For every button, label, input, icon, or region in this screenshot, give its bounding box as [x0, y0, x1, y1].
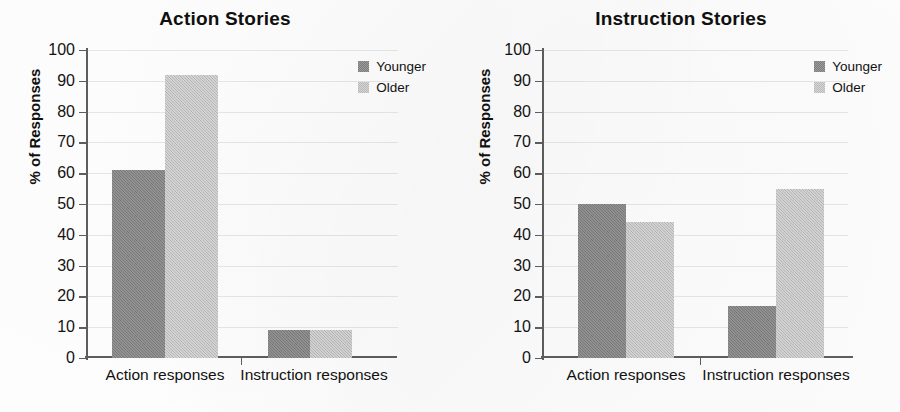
y-tick [535, 81, 542, 82]
bar-instruction-older[interactable] [310, 330, 352, 358]
legend-swatch-younger-icon [358, 61, 369, 72]
chart-panel-instruction-stories: Instruction Stories % of Responses 100 9… [450, 0, 900, 412]
y-tick [79, 142, 86, 143]
y-tick [535, 235, 542, 236]
bar-instruction-younger[interactable] [728, 306, 776, 358]
figure-two-panel-bar-charts: Action Stories % of Responses 100 90 80 … [0, 0, 900, 412]
y-tick [79, 81, 86, 82]
y-tick [79, 204, 86, 205]
y-tick-label: 50 [513, 196, 531, 212]
legend-swatch-younger-icon [814, 61, 825, 72]
bar-instruction-older[interactable] [776, 189, 824, 358]
y-tick-label: 70 [513, 134, 531, 150]
chart-title: Instruction Stories [456, 8, 900, 30]
y-tick-label: 10 [513, 319, 531, 335]
y-tick [535, 296, 542, 297]
y-tick-label: 40 [513, 227, 531, 243]
bar-action-older[interactable] [165, 75, 218, 358]
y-tick-label: 90 [513, 73, 531, 89]
x-tick-label-action-responses: Action responses [567, 366, 686, 384]
y-tick [79, 173, 86, 174]
y-tick [79, 296, 86, 297]
legend-label-older: Older [376, 81, 409, 95]
y-tick [535, 50, 542, 51]
y-tick [535, 327, 542, 328]
bar-action-younger[interactable] [112, 170, 165, 358]
y-tick-label: 0 [66, 350, 75, 366]
y-axis-title: % of Responses [26, 57, 43, 197]
y-tick [535, 266, 542, 267]
x-tick-label-action-responses: Action responses [106, 366, 225, 384]
y-tick [535, 173, 542, 174]
category-divider-tick [700, 357, 701, 365]
y-tick-label: 10 [57, 319, 75, 335]
x-tick-label-instruction-responses: Instruction responses [702, 366, 849, 384]
category-divider-tick [241, 357, 242, 365]
y-tick-label: 90 [57, 73, 75, 89]
y-tick-label: 80 [57, 104, 75, 120]
bar-instruction-younger[interactable] [268, 330, 310, 358]
y-tick [535, 204, 542, 205]
x-axis-labels: Action responses Instruction responses [86, 366, 398, 390]
x-tick-label-instruction-responses: Instruction responses [240, 366, 387, 384]
legend-item-younger[interactable]: Younger [814, 60, 882, 74]
y-tick-label: 0 [522, 350, 531, 366]
y-tick [79, 327, 86, 328]
y-tick [79, 235, 86, 236]
legend-item-older[interactable]: Older [814, 81, 882, 95]
y-tick [535, 142, 542, 143]
legend: Younger Older [814, 60, 882, 94]
y-tick-label: 50 [57, 196, 75, 212]
y-tick-label: 60 [57, 165, 75, 181]
legend-label-younger: Younger [376, 60, 426, 74]
bar-group-container [542, 50, 844, 358]
legend-item-younger[interactable]: Younger [358, 60, 426, 74]
y-tick-label: 70 [57, 134, 75, 150]
y-tick-label: 20 [57, 288, 75, 304]
y-tick [535, 358, 542, 359]
bar-action-older[interactable] [626, 222, 674, 358]
y-tick-label: 100 [48, 42, 75, 58]
plot-area: 100 90 80 70 60 50 40 30 20 10 0 [542, 50, 844, 358]
y-tick-label: 80 [513, 104, 531, 120]
legend: Younger Older [358, 60, 426, 94]
legend-item-older[interactable]: Older [358, 81, 426, 95]
y-tick-label: 30 [513, 258, 531, 274]
plot-area: 100 90 80 70 60 50 40 30 20 10 0 [86, 50, 394, 358]
x-axis-labels: Action responses Instruction responses [542, 366, 848, 390]
y-tick [79, 358, 86, 359]
y-tick [79, 50, 86, 51]
legend-swatch-older-icon [814, 82, 825, 93]
y-tick-label: 100 [504, 42, 531, 58]
y-tick [535, 112, 542, 113]
legend-label-older: Older [832, 81, 865, 95]
bar-group-container [86, 50, 394, 358]
chart-panel-action-stories: Action Stories % of Responses 100 90 80 … [0, 0, 450, 412]
legend-label-younger: Younger [832, 60, 882, 74]
bar-action-younger[interactable] [578, 204, 626, 358]
y-axis-title: % of Responses [476, 57, 493, 197]
y-tick-label: 40 [57, 227, 75, 243]
y-tick-label: 60 [513, 165, 531, 181]
y-tick [79, 112, 86, 113]
chart-title: Action Stories [0, 8, 450, 30]
y-tick-label: 30 [57, 258, 75, 274]
legend-swatch-older-icon [358, 82, 369, 93]
y-tick-label: 20 [513, 288, 531, 304]
y-tick [79, 266, 86, 267]
